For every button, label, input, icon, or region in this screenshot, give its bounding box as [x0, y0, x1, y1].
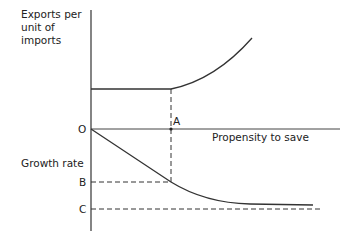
y-axis-label-top-line2: unit of [21, 21, 55, 33]
y-axis-label-top-line1: Exports per [21, 8, 82, 20]
y-axis-label-top-line3: imports [21, 34, 61, 46]
x-axis-label: Propensity to save [212, 131, 309, 143]
level-c-label: C [79, 203, 86, 215]
origin-label: O [78, 123, 86, 135]
y-axis-label-bottom: Growth rate [21, 157, 84, 169]
level-b-label: B [79, 176, 86, 188]
point-a [169, 127, 172, 130]
exports-per-import-curve [91, 38, 252, 89]
point-a-label: A [173, 115, 180, 127]
